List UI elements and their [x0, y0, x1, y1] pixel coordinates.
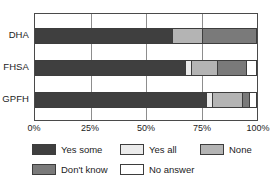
- x-axis-tick-50pct: 50%: [137, 122, 155, 134]
- legend-label-yes-all: Yes all: [149, 144, 177, 155]
- legend-label-no-answer: No answer: [149, 164, 194, 175]
- legend-item-yes-all: Yes all: [120, 143, 177, 156]
- legend-label-yes-some: Yes some: [61, 144, 102, 155]
- bar-fhsa: [35, 60, 257, 76]
- y-axis-labels: DHA FHSA GPFH: [0, 13, 32, 121]
- x-axis-tick-25pct: 25%: [81, 122, 99, 134]
- legend-swatch-dont-know: [32, 164, 56, 175]
- bar-segment-yes-some: [35, 60, 186, 76]
- legend-item-yes-some: Yes some: [32, 143, 102, 156]
- x-axis-tick-0pct: 0%: [27, 122, 40, 134]
- x-axis-labels: 0%25%50%75%100%: [34, 122, 258, 136]
- legend-label-dont-know: Don't know: [61, 164, 108, 175]
- bar-segment-don-t-know: [218, 60, 247, 76]
- bar-segment-no-answer: [247, 60, 257, 76]
- y-axis-label-dha: DHA: [9, 27, 29, 43]
- plot-area: [34, 13, 258, 121]
- bar-segment-don-t-know: [203, 28, 257, 44]
- legend-item-none: None: [200, 143, 252, 156]
- legend-swatch-yes-some: [32, 144, 56, 155]
- bar-segment-no-answer: [250, 92, 257, 108]
- y-axis-label-fhsa: FHSA: [3, 59, 29, 75]
- bar-segment-don-t-know: [243, 92, 251, 108]
- legend-swatch-yes-all: [120, 144, 144, 155]
- legend-item-no-answer: No answer: [120, 163, 194, 176]
- legend-item-dont-know: Don't know: [32, 163, 108, 176]
- bar-segment-yes-some: [35, 28, 173, 44]
- legend-label-none: None: [229, 144, 252, 155]
- bar-gpfh: [35, 92, 257, 108]
- x-axis-tick-100pct: 100%: [246, 122, 269, 134]
- legend-swatch-no-answer: [120, 164, 144, 175]
- bar-segment-yes-some: [35, 92, 207, 108]
- bar-segment-none: [213, 92, 243, 108]
- chart-legend: Yes some Yes all None Don't know No answ…: [32, 143, 264, 183]
- stacked-bar-chart: DHA FHSA GPFH 0%25%50%75%100% Yes some Y…: [0, 0, 273, 187]
- y-axis-label-gpfh: GPFH: [2, 91, 29, 107]
- bar-dha: [35, 28, 257, 44]
- x-axis-tick-75pct: 75%: [193, 122, 211, 134]
- legend-swatch-none: [200, 144, 224, 155]
- bar-group: [35, 14, 257, 120]
- bar-segment-none: [192, 60, 219, 76]
- bar-segment-none: [173, 28, 203, 44]
